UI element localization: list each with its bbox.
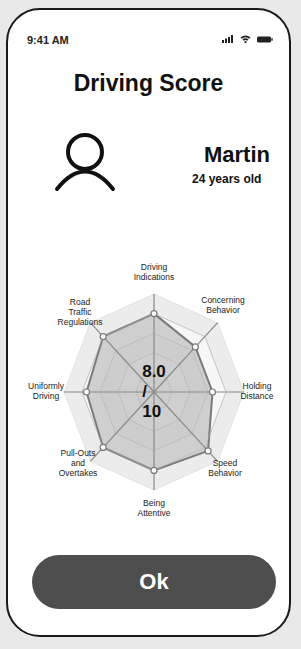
data-point <box>84 389 90 395</box>
data-point <box>100 334 106 340</box>
axis-label: Speed Behavior <box>208 458 242 478</box>
axis-label: Concerning Behavior <box>201 295 244 315</box>
data-point <box>205 448 211 454</box>
data-point <box>192 344 198 350</box>
phone-frame: 9:41 AM Driving Score Martin 24 years ol… <box>6 8 291 637</box>
axis-label: Uniformly Driving <box>28 381 64 401</box>
axis-label: Holding Distance <box>240 381 273 401</box>
data-point <box>100 444 106 450</box>
radar-chart-svg <box>6 8 291 637</box>
axis-label: Being Attentive <box>137 498 170 518</box>
data-point <box>210 389 216 395</box>
axis-label: Driving Indications <box>134 262 175 282</box>
axis-label: Road Traffic Regulations <box>58 297 103 327</box>
data-point <box>151 311 157 317</box>
ok-button[interactable]: Ok <box>32 555 276 609</box>
axis-label: Pull-Outs and Overtakes <box>59 448 98 478</box>
data-point <box>151 467 157 473</box>
score-value: 8.0 / 10 <box>142 362 166 422</box>
